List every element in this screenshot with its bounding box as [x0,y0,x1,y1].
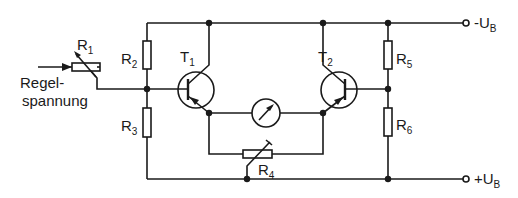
resistor-r1 [72,63,100,71]
left-divider: R2 R3 [121,23,151,179]
terminal-plus-ub: +UB [463,170,501,190]
r1-label: R1 [77,36,94,56]
r3-label: R3 [121,117,138,137]
r6-label: R6 [396,116,413,136]
transistor-t1: T1 [147,20,214,116]
terminal-plus-label: +UB [474,170,501,190]
resistor-r2 [143,41,151,69]
terminal-minus-label: -UB [474,14,497,34]
arrow-right-icon [62,63,72,71]
input-label-line1: Regel- [20,74,64,91]
t1-label: T1 [180,48,195,68]
circuit-diagram: -UB +UB R2 R3 R1 Regel- spannung [0,0,518,198]
right-divider: R5 R6 [384,20,413,182]
meter-needle-icon [266,104,274,111]
meter [209,99,323,127]
potentiometer-r4: R4 [209,113,323,182]
r5-label: R5 [396,50,413,70]
terminal-minus-ub: -UB [463,14,497,34]
input-r1: R1 Regel- spannung [20,36,147,109]
resistor-r5 [384,41,392,69]
resistor-r6 [384,108,392,136]
resistor-r3 [143,108,151,137]
input-label-line2: spannung [22,92,88,109]
r4-label: R4 [258,161,275,181]
transistor-t2: T2 [318,20,388,116]
t2-label: T2 [318,48,333,68]
r2-label: R2 [121,50,138,70]
